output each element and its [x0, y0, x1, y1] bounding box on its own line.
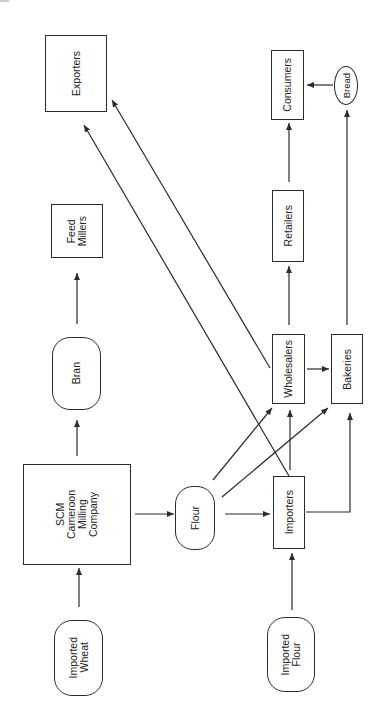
node-retailers: Retailers [272, 190, 304, 262]
arrow-importers-to-bakeries [306, 413, 350, 512]
node-label: Retailers [283, 205, 294, 246]
node-bran: Bran [52, 337, 101, 410]
node-label: SCM Cameroon Milling Company [55, 490, 99, 539]
node-label: Flour [190, 506, 201, 530]
node-label: Importers [284, 490, 295, 534]
node-bread: Bread [334, 66, 358, 105]
node-label: Bran [71, 362, 82, 384]
node-imported-wheat: Imported Wheat [54, 620, 103, 696]
node-label: Bakeries [342, 349, 353, 390]
node-consumers: Consumers [271, 50, 304, 120]
node-exporters: Exporters [45, 35, 107, 112]
arrow-wholesalers-to-exporters [112, 100, 270, 368]
node-feed-millers: Feed Millers [51, 204, 103, 258]
node-imported-flour: Imported Flour [267, 617, 315, 692]
node-label: Consumers [282, 58, 293, 112]
node-scm-cameroon-milling-company: SCM Cameroon Milling Company [23, 464, 131, 565]
node-label: Imported Wheat [68, 637, 90, 678]
arrow-flour-to-wholesalers [213, 408, 272, 480]
node-label: Bread [341, 73, 352, 98]
arrow-importers-to-exporters [84, 125, 289, 476]
node-label: Feed Millers [66, 216, 88, 246]
node-label: Wholesalers [283, 340, 294, 398]
node-importers: Importers [273, 476, 305, 549]
node-label: Imported Flour [280, 634, 302, 675]
node-wholesalers: Wholesalers [272, 334, 305, 404]
node-bakeries: Bakeries [331, 334, 363, 404]
node-label: Exporters [71, 51, 82, 96]
node-flour: Flour [175, 486, 215, 550]
